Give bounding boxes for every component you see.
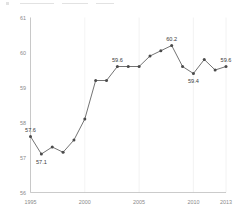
series-data-point (29, 135, 32, 138)
series-data-point (148, 55, 151, 58)
series-data-point (170, 44, 173, 47)
series-data-point (94, 79, 97, 82)
gridlines-group (31, 18, 227, 193)
x-axis-tick-label: 1995 (25, 199, 37, 205)
series-data-point (83, 118, 86, 121)
series-data-point (40, 153, 43, 156)
data-point-labels-group: 57.657.159.660.259.459.6 (25, 36, 231, 165)
x-axis-tick-label: 2010 (187, 199, 199, 205)
x-axis-tick-label: 2005 (133, 199, 145, 205)
data-point-label: 57.6 (25, 127, 36, 133)
series-data-point (51, 146, 54, 149)
series-markers-group (29, 44, 228, 156)
y-axis-tick-label: 59 (20, 85, 26, 91)
x-axis-tick-label: 2013 (220, 199, 232, 205)
series-data-point (105, 79, 108, 82)
series-data-point (116, 65, 119, 68)
series-data-point (214, 69, 217, 72)
y-axis-tick-label: 56 (20, 190, 26, 196)
y-axis-tick-label: 61 (20, 15, 26, 21)
series-data-point (62, 151, 65, 154)
data-point-label: 59.6 (112, 57, 123, 63)
series-data-point (192, 72, 195, 75)
series-data-point (181, 65, 184, 68)
series-line-path (31, 46, 227, 155)
y-axis-tick-label: 58 (20, 120, 26, 126)
data-point-label: 57.1 (36, 159, 47, 165)
series-data-point (127, 65, 130, 68)
series-data-point (72, 139, 75, 142)
data-point-label: 59.6 (221, 57, 232, 63)
line-chart-figure: 565758596061 19952000200520102013 57.657… (0, 0, 234, 217)
data-point-label: 59.4 (188, 78, 199, 84)
x-axis-tick-labels: 19952000200520102013 (25, 199, 233, 205)
data-point-label: 60.2 (166, 36, 177, 42)
y-axis-tick-label: 57 (20, 155, 26, 161)
series-data-point (159, 49, 162, 52)
series-data-point (203, 58, 206, 61)
chart-canvas: 565758596061 19952000200520102013 57.657… (0, 0, 234, 217)
x-axis-tick-label: 2000 (79, 199, 91, 205)
series-data-point (225, 65, 228, 68)
y-axis-tick-label: 60 (20, 50, 26, 56)
series-data-point (138, 65, 141, 68)
y-axis-tick-labels: 565758596061 (20, 15, 26, 196)
